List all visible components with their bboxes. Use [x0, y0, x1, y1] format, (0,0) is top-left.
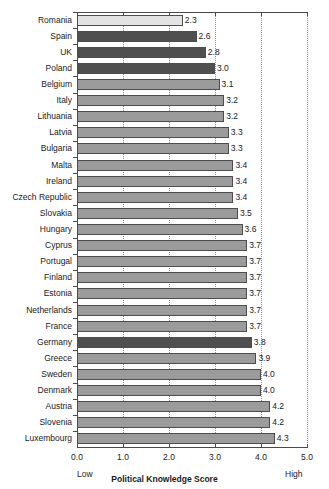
bar-uk [77, 47, 206, 58]
bar-row: 3.5 [77, 208, 307, 219]
bar-value-label: 3.7 [249, 255, 261, 267]
category-tick [73, 366, 77, 367]
bar-estonia [77, 288, 247, 299]
category-label-belgium: Belgium [0, 79, 72, 90]
category-label-luxembourg: Luxembourg [0, 433, 72, 444]
bar-value-label: 3.5 [240, 207, 252, 219]
category-tick [73, 399, 77, 400]
bar-row: 3.4 [77, 160, 307, 171]
bar-ireland [77, 176, 233, 187]
category-label-portugal: Portugal [0, 256, 72, 267]
bar-luxembourg [77, 433, 275, 444]
category-label-ireland: Ireland [0, 176, 72, 187]
bar-slovakia [77, 208, 238, 219]
category-tick [73, 205, 77, 206]
category-tick [73, 44, 77, 45]
bar-czech-republic [77, 192, 233, 203]
category-label-italy: Italy [0, 95, 72, 106]
category-tick [73, 157, 77, 158]
category-tick [73, 93, 77, 94]
category-tick [73, 109, 77, 110]
bar-value-label: 2.8 [208, 46, 220, 58]
bar-value-label: 4.0 [263, 384, 275, 396]
category-tick [73, 334, 77, 335]
category-tick [73, 60, 77, 61]
bar-row: 3.2 [77, 95, 307, 106]
category-tick [73, 125, 77, 126]
bar-row: 2.3 [77, 15, 307, 26]
bar-value-label: 3.9 [258, 352, 270, 364]
bar-value-label: 3.4 [235, 191, 247, 203]
bar-value-label: 3.2 [226, 110, 238, 122]
category-tick [73, 270, 77, 271]
category-label-poland: Poland [0, 63, 72, 74]
category-label-cyprus: Cyprus [0, 240, 72, 251]
tick-1.0 [123, 444, 124, 448]
category-tick [73, 254, 77, 255]
bar-value-label: 3.4 [235, 159, 247, 171]
category-label-netherlands: Netherlands [0, 305, 72, 316]
bar-france [77, 321, 247, 332]
category-tick [73, 286, 77, 287]
bar-portugal [77, 256, 247, 267]
tick-5.0 [307, 444, 308, 448]
political-knowledge-bar-chart: 2.32.62.83.03.13.23.23.33.33.43.43.43.53… [0, 0, 329, 489]
bar-row: 2.6 [77, 31, 307, 42]
bar-value-label: 3.6 [245, 223, 257, 235]
bar-value-label: 3.8 [254, 336, 266, 348]
category-label-slovenia: Slovenia [0, 417, 72, 428]
bar-row: 3.4 [77, 176, 307, 187]
category-tick [73, 238, 77, 239]
category-label-latvia: Latvia [0, 127, 72, 138]
category-tick [73, 141, 77, 142]
category-label-czech-republic: Czech Republic [0, 192, 72, 203]
bar-row: 3.7 [77, 305, 307, 316]
category-label-austria: Austria [0, 401, 72, 412]
x-tick-label-1.0: 1.0 [108, 452, 138, 462]
bar-row: 3.8 [77, 337, 307, 348]
category-tick [73, 415, 77, 416]
category-tick [73, 173, 77, 174]
bar-value-label: 4.0 [263, 368, 275, 380]
category-tick [73, 189, 77, 190]
axis-line-bottom [77, 447, 307, 448]
category-label-malta: Malta [0, 160, 72, 171]
category-label-estonia: Estonia [0, 288, 72, 299]
bar-poland [77, 63, 215, 74]
bar-row: 3.6 [77, 224, 307, 235]
bar-belgium [77, 79, 220, 90]
bar-value-label: 3.7 [249, 239, 261, 251]
bar-italy [77, 95, 224, 106]
category-tick [73, 431, 77, 432]
bar-greece [77, 353, 256, 364]
bar-austria [77, 401, 270, 412]
category-tick [73, 302, 77, 303]
bar-value-label: 3.3 [231, 142, 243, 154]
bar-row: 3.2 [77, 111, 307, 122]
bar-row: 3.4 [77, 192, 307, 203]
bar-row: 4.0 [77, 369, 307, 380]
category-label-greece: Greece [0, 353, 72, 364]
bar-value-label: 3.2 [226, 94, 238, 106]
bar-denmark [77, 385, 261, 396]
x-tick-label-5.0: 5.0 [292, 452, 322, 462]
bar-latvia [77, 127, 229, 138]
bar-row: 3.3 [77, 127, 307, 138]
category-tick [73, 318, 77, 319]
category-label-sweden: Sweden [0, 369, 72, 380]
bar-malta [77, 160, 233, 171]
x-tick-label-0.0: 0.0 [62, 452, 92, 462]
plot-area: 2.32.62.83.03.13.23.23.33.33.43.43.43.53… [77, 12, 307, 447]
gridline-5.0 [307, 12, 308, 447]
bar-value-label: 4.3 [277, 432, 289, 444]
bar-row: 3.7 [77, 272, 307, 283]
x-axis-title: Political Knowledge Score [0, 474, 329, 484]
bar-row: 4.0 [77, 385, 307, 396]
tick-3.0 [215, 444, 216, 448]
category-label-uk: UK [0, 47, 72, 58]
tick-0.0 [77, 444, 78, 448]
bar-value-label: 3.4 [235, 175, 247, 187]
bar-row: 2.8 [77, 47, 307, 58]
category-tick [73, 221, 77, 222]
category-label-spain: Spain [0, 31, 72, 42]
